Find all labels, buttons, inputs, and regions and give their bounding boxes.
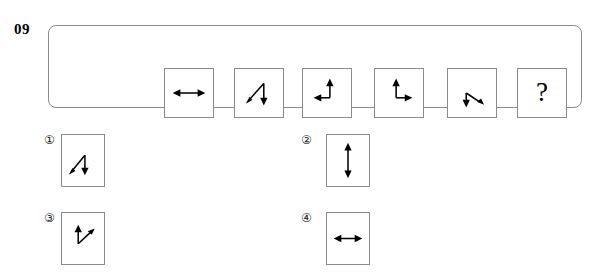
- arrow-up-right-icon: [392, 79, 412, 102]
- option-3[interactable]: [61, 212, 105, 265]
- arrow-up-down-icon: [344, 143, 351, 178]
- arrow-left-right-icon: [334, 235, 363, 242]
- arrow-downleft-down-icon: [69, 155, 89, 175]
- arrow-down-downright-icon: [463, 93, 484, 107]
- sequence-panel: ?: [48, 25, 582, 108]
- option-2-marker[interactable]: ②: [301, 134, 312, 146]
- question-number: 09: [14, 22, 30, 37]
- option-1[interactable]: [61, 134, 105, 187]
- question-mark-glyph: ?: [518, 69, 566, 117]
- arrow-up-upright-icon: [75, 225, 95, 244]
- option-2[interactable]: [326, 134, 370, 187]
- option-4[interactable]: [326, 212, 370, 265]
- sequence-figure-5: [447, 68, 497, 118]
- arrow-left-right-icon: [173, 89, 206, 96]
- sequence-figure-1: [164, 68, 214, 118]
- option-4-marker[interactable]: ④: [301, 212, 312, 224]
- option-1-marker[interactable]: ①: [44, 134, 55, 146]
- sequence-figure-3: [302, 68, 352, 118]
- worksheet-canvas: 09: [0, 0, 597, 280]
- option-3-marker[interactable]: ③: [44, 212, 55, 224]
- sequence-figure-2: [234, 68, 284, 118]
- sequence-figure-4: [374, 68, 424, 118]
- arrow-downleft-down-icon: [246, 83, 268, 105]
- arrow-up-left-icon: [314, 79, 334, 102]
- sequence-figure-missing: ?: [517, 68, 567, 118]
